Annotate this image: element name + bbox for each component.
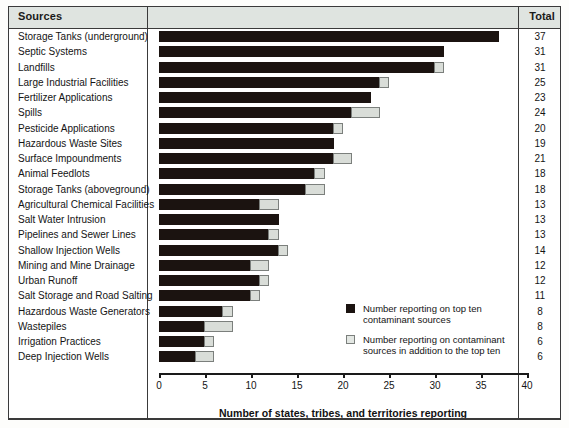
total-value: 18: [519, 182, 561, 197]
bar-segment-additional: [333, 153, 352, 164]
stacked-bar: [159, 31, 499, 42]
x-axis-tick-label: 10: [245, 380, 256, 391]
total-value: 13: [519, 212, 561, 227]
source-label: Animal Feedlots: [9, 166, 147, 181]
bar-segment-top-ten: [159, 214, 279, 225]
source-label: Pesticide Applications: [9, 121, 147, 136]
stacked-bar: [159, 138, 334, 149]
stacked-bar: [159, 92, 371, 103]
stacked-bar: [159, 306, 233, 317]
source-label: Agricultural Chemical Facilities: [9, 197, 147, 212]
x-axis-tick: [481, 373, 483, 378]
bar-segment-top-ten: [159, 351, 196, 362]
stacked-bar: [159, 77, 389, 88]
source-label: Storage Tanks (aboveground): [9, 182, 147, 197]
source-label: Salt Storage and Road Salting: [9, 288, 147, 303]
source-label: Urban Runoff: [9, 273, 147, 288]
source-label: Septic Systems: [9, 44, 147, 59]
legend-item-top-ten: Number reporting on top ten contaminant …: [346, 303, 528, 325]
x-axis-tick: [527, 373, 529, 378]
bar-segment-additional: [259, 275, 269, 286]
stacked-bar: [159, 184, 325, 195]
bar-segment-top-ten: [159, 168, 315, 179]
bar-row: [148, 273, 518, 288]
bar-segment-top-ten: [159, 336, 205, 347]
source-label: Surface Impoundments: [9, 151, 147, 166]
stacked-bar: [159, 245, 288, 256]
legend-item-additional: Number reporting on contaminant sources …: [346, 334, 528, 356]
source-label: Shallow Injection Wells: [9, 243, 147, 258]
bar-segment-additional: [268, 229, 278, 240]
bar-segment-top-ten: [159, 245, 279, 256]
total-value: 12: [519, 258, 561, 273]
source-label: Mining and Mine Drainage: [9, 258, 147, 273]
bar-row: [148, 243, 518, 258]
bar-segment-top-ten: [159, 229, 269, 240]
source-label: Fertilizer Applications: [9, 90, 147, 105]
bar-segment-top-ten: [159, 62, 435, 73]
bar-segment-additional: [222, 306, 232, 317]
source-label: Large Industrial Facilities: [9, 75, 147, 90]
x-axis-tick-label: 20: [337, 380, 348, 391]
bar-segment-additional: [379, 77, 389, 88]
bar-segment-top-ten: [159, 46, 444, 57]
total-value: 31: [519, 44, 561, 59]
x-axis: [159, 373, 527, 375]
bar-segment-top-ten: [159, 199, 260, 210]
bar-segment-top-ten: [159, 290, 251, 301]
stacked-bar: [159, 123, 343, 134]
bar-segment-top-ten: [159, 123, 334, 134]
total-value: 24: [519, 105, 561, 120]
bar-row: [148, 212, 518, 227]
x-axis-tick-label: 5: [202, 380, 208, 391]
bar-segment-top-ten: [159, 92, 371, 103]
bar-segment-top-ten: [159, 306, 223, 317]
x-axis-tick: [435, 373, 437, 378]
source-label: Pipelines and Sewer Lines: [9, 227, 147, 242]
source-label: Deep Injection Wells: [9, 349, 147, 364]
bar-segment-additional: [278, 245, 288, 256]
bar-segment-additional: [305, 184, 324, 195]
legend-swatch-dark-icon: [346, 304, 355, 313]
stacked-bar: [159, 62, 444, 73]
source-label: Irrigation Practices: [9, 334, 147, 349]
bar-row: [148, 29, 518, 44]
total-value: 18: [519, 166, 561, 181]
bar-segment-additional: [259, 199, 278, 210]
total-value: 31: [519, 60, 561, 75]
stacked-bar: [159, 336, 214, 347]
x-axis-tick-label: 0: [156, 380, 162, 391]
bar-segment-top-ten: [159, 275, 260, 286]
stacked-bar: [159, 214, 279, 225]
bar-row: [148, 60, 518, 75]
bar-row: [148, 288, 518, 303]
bar-row: [148, 182, 518, 197]
stacked-bar: [159, 168, 325, 179]
total-value: 13: [519, 227, 561, 242]
total-value: 11: [519, 288, 561, 303]
bar-segment-top-ten: [159, 153, 334, 164]
plot-area: 0510152025303540 Number of states, tribe…: [148, 29, 518, 420]
bar-segment-top-ten: [159, 260, 251, 271]
x-axis-tick: [389, 373, 391, 378]
x-axis-tick: [251, 373, 253, 378]
source-label: Wastepiles: [9, 319, 147, 334]
source-label: Hazardous Waste Generators: [9, 304, 147, 319]
bar-segment-top-ten: [159, 31, 499, 42]
x-axis-tick-label: 35: [475, 380, 486, 391]
source-label: Landfills: [9, 60, 147, 75]
x-axis-tick-label: 25: [383, 380, 394, 391]
bar-row: [148, 105, 518, 120]
bar-segment-additional: [434, 62, 444, 73]
bar-row: [148, 258, 518, 273]
bar-segment-additional: [314, 168, 324, 179]
bar-segment-additional: [351, 107, 380, 118]
stacked-bar: [159, 199, 279, 210]
stacked-bar: [159, 290, 260, 301]
bar-segment-additional: [204, 321, 233, 332]
total-value: 19: [519, 136, 561, 151]
total-value: 14: [519, 243, 561, 258]
source-label: Hazardous Waste Sites: [9, 136, 147, 151]
bar-segment-additional: [204, 336, 214, 347]
bar-row: [148, 121, 518, 136]
